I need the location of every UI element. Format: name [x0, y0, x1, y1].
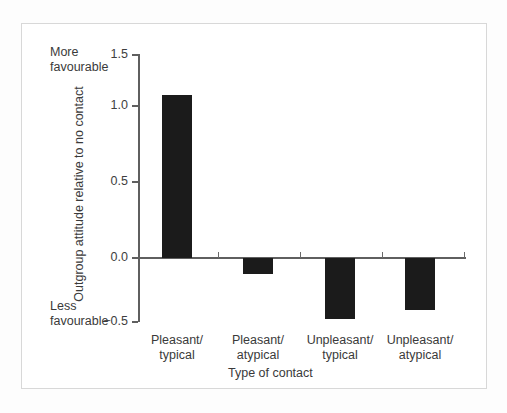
- x-category-label-unpleasant-atypical-line2: atypical: [366, 348, 474, 363]
- figure-page: More favourable Less favourable 1.5 1.0 …: [0, 0, 507, 413]
- x-axis-title: Type of contact: [228, 366, 313, 380]
- bar-pleasant-typical: [162, 95, 192, 258]
- x-category-label-unpleasant-atypical-line1: Unpleasant/: [366, 333, 474, 348]
- bar-unpleasant-typical: [325, 258, 355, 319]
- y-tick-mark-0.5: [132, 181, 138, 183]
- y-tick-mark-1.0: [132, 105, 138, 107]
- y-tick-mark-1.5: [132, 54, 138, 56]
- x-tick-mark-2: [300, 252, 301, 258]
- annotation-less-favourable-line1: Less: [50, 299, 124, 314]
- x-tick-mark-1: [218, 252, 219, 258]
- y-tick-mark-0.0: [132, 257, 138, 259]
- y-axis-title: Outgroup attitude relative to no contact: [72, 79, 86, 309]
- x-tick-mark-4: [464, 252, 465, 258]
- annotation-more-favourable-line2: favourable: [50, 60, 124, 75]
- y-tick-label-1.5: 1.5: [68, 47, 128, 61]
- x-category-label-unpleasant-atypical: Unpleasant/ atypical: [366, 333, 474, 363]
- y-axis-line: [138, 54, 140, 322]
- bar-unpleasant-atypical: [405, 258, 435, 310]
- y-tick-mark--0.5: [132, 321, 138, 323]
- bar-chart: More favourable Less favourable 1.5 1.0 …: [0, 0, 507, 413]
- bar-pleasant-atypical: [243, 258, 273, 274]
- x-tick-mark-3: [382, 252, 383, 258]
- y-tick-label--0.5: −0.5: [68, 314, 128, 328]
